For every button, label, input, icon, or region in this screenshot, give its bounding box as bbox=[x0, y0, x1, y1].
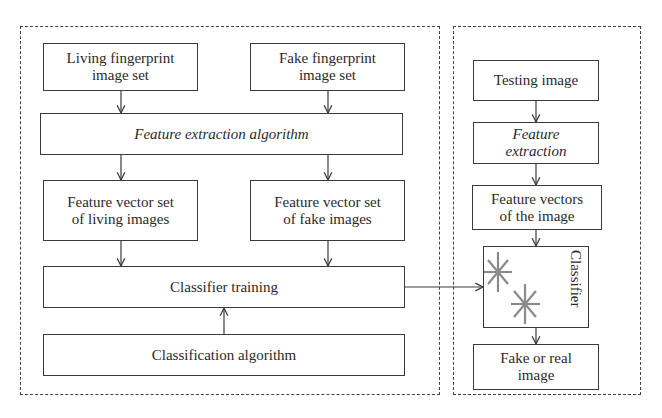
feature-extraction-box: Feature extraction bbox=[473, 122, 599, 164]
testing-image-box: Testing image bbox=[473, 60, 599, 101]
output-line-1: Fake or real bbox=[500, 350, 572, 367]
living-vectors-box: Feature vector set of living images bbox=[43, 180, 198, 241]
living-image-set-box: Living fingerprint image set bbox=[43, 43, 198, 91]
fake-image-set-box: Fake fingerprint image set bbox=[250, 43, 405, 91]
feature-vectors-box: Feature vectors of the image bbox=[472, 185, 602, 230]
testing-image-label: Testing image bbox=[494, 72, 578, 89]
fake-vectors-line-1: Feature vector set bbox=[274, 194, 381, 211]
output-box: Fake or real image bbox=[473, 344, 599, 390]
feature-extraction-line-2: extraction bbox=[506, 143, 567, 160]
fake-set-line-1: Fake fingerprint bbox=[279, 50, 376, 67]
classification-algorithm-box: Classification algorithm bbox=[43, 334, 405, 376]
living-vectors-line-2: of living images bbox=[72, 211, 170, 228]
feature-extraction-algorithm-box: Feature extraction algorithm bbox=[40, 113, 403, 155]
feature-vectors-line-2: of the image bbox=[500, 208, 575, 225]
feature-extraction-line-1: Feature bbox=[513, 126, 560, 143]
fake-vectors-line-2: of fake images bbox=[283, 211, 371, 228]
living-set-line-1: Living fingerprint bbox=[67, 50, 175, 67]
classifier-training-label: Classifier training bbox=[170, 279, 278, 296]
living-set-line-2: image set bbox=[92, 67, 149, 84]
classifier-training-box: Classifier training bbox=[43, 266, 405, 308]
feature-vectors-line-1: Feature vectors bbox=[491, 191, 583, 208]
fake-vectors-box: Feature vector set of fake images bbox=[250, 180, 405, 241]
output-line-2: image bbox=[518, 367, 555, 384]
feature-extraction-label: Feature extraction algorithm bbox=[134, 126, 308, 143]
living-vectors-line-1: Feature vector set bbox=[67, 194, 174, 211]
classification-algorithm-label: Classification algorithm bbox=[152, 347, 297, 364]
fake-set-line-2: image set bbox=[299, 67, 356, 84]
classifier-label: Classifier bbox=[567, 250, 584, 308]
